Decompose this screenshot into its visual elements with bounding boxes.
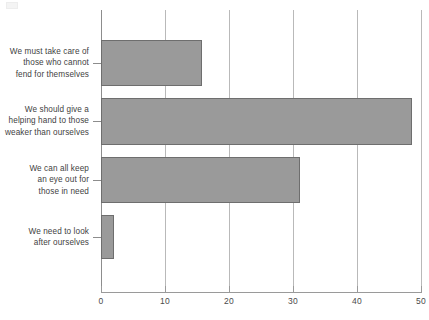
category-tick-3 xyxy=(93,237,101,238)
category-tick-1 xyxy=(93,121,101,122)
gridline-50 xyxy=(421,10,422,292)
x-tick-mark-4 xyxy=(357,286,358,293)
category-label-1: We should give ahelping hand to thosewea… xyxy=(0,104,89,138)
x-axis-line xyxy=(101,292,421,293)
gridline-20 xyxy=(229,10,230,292)
bar-2 xyxy=(101,157,300,203)
gridline-30 xyxy=(293,10,294,292)
x-tick-mark-5 xyxy=(421,286,422,293)
x-tick-mark-0 xyxy=(101,286,102,293)
x-tick-label-3: 30 xyxy=(288,296,298,306)
gridline-40 xyxy=(357,10,358,292)
bar-3 xyxy=(101,215,114,259)
x-tick-label-0: 0 xyxy=(99,296,104,306)
category-tick-2 xyxy=(93,180,101,181)
category-label-0: We must take care ofthose who cannotfend… xyxy=(0,46,89,80)
x-tick-label-4: 40 xyxy=(352,296,362,306)
category-tick-0 xyxy=(93,63,101,64)
bar-1 xyxy=(101,98,412,145)
x-tick-mark-1 xyxy=(165,286,166,293)
category-label-3: We need to lookafter ourselves xyxy=(0,226,89,249)
x-tick-mark-2 xyxy=(229,286,230,293)
bar-0 xyxy=(101,40,202,86)
bar-chart: We must take care ofthose who cannotfend… xyxy=(0,0,429,320)
x-tick-mark-3 xyxy=(293,286,294,293)
x-tick-label-2: 20 xyxy=(224,296,234,306)
category-label-2: We can all keepan eye out forthose in ne… xyxy=(0,163,89,197)
x-tick-label-5: 50 xyxy=(416,296,426,306)
x-tick-label-1: 10 xyxy=(160,296,170,306)
page-corner-artifact xyxy=(6,2,18,9)
